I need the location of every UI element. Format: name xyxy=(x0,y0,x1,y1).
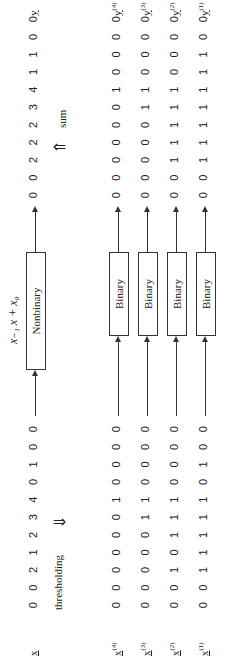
sample-value: 0 xyxy=(110,508,122,526)
binary-output-label: y(3) xyxy=(139,2,152,16)
sample-value: 0 xyxy=(27,420,39,438)
sample-value: 0 xyxy=(139,116,151,134)
binary-input-arrow xyxy=(118,340,119,416)
sample-value: 0 xyxy=(139,28,151,46)
sample-value: 1 xyxy=(27,46,39,64)
sample-value: 1 xyxy=(197,116,209,134)
sample-value: 1 xyxy=(197,134,209,152)
sample-value: 2 xyxy=(27,561,39,579)
binary-output-label: y(1) xyxy=(197,2,210,16)
threshold-decomposition-diagram: x 00212340100 Nonbinary 00222341100 y x₋… xyxy=(0,0,226,664)
threshold-level-row: x(2) 00101110000 Binary 00111110000 y(2) xyxy=(168,0,188,664)
sample-value: 0 xyxy=(110,63,122,81)
sample-value: 0 xyxy=(139,544,151,562)
binary-output-arrowhead xyxy=(202,206,208,212)
output-arrowhead xyxy=(32,206,38,212)
sample-value: 0 xyxy=(110,526,122,544)
input-arrowhead xyxy=(32,370,38,376)
sample-value: 0 xyxy=(139,169,151,187)
sample-value: 0 xyxy=(110,151,122,169)
sample-value: 0 xyxy=(197,438,209,456)
sample-value: 0 xyxy=(110,28,122,46)
sample-value: 3 xyxy=(27,508,39,526)
sample-value: 0 xyxy=(27,186,39,204)
sample-value: 1 xyxy=(139,98,151,116)
sample-value: 1 xyxy=(139,491,151,509)
sample-value: 1 xyxy=(168,151,180,169)
threshold-level-row: x(4) 00000010000 Binary 00000010000 y(4) xyxy=(110,0,130,664)
binary-filter-box: Binary xyxy=(196,252,216,336)
sample-value: 1 xyxy=(197,63,209,81)
sample-value: 0 xyxy=(168,596,180,614)
threshold-level-row: x(3) 00000110000 Binary 00000110000 y(3) xyxy=(139,0,159,664)
sample-value: 2 xyxy=(27,116,39,134)
binary-output-arrow xyxy=(205,210,206,252)
sample-value: 0 xyxy=(139,596,151,614)
input-label: x xyxy=(27,651,39,657)
filter-formula: x₋₁ x + x₀ xyxy=(6,296,21,344)
binary-output-sequence: 00000110000 xyxy=(139,10,151,204)
binary-input-sequence: 00101110000 xyxy=(168,420,180,614)
binary-input-sequence: 00000110000 xyxy=(139,420,151,614)
sample-value: 1 xyxy=(197,491,209,509)
binary-output-arrow xyxy=(176,210,177,252)
sample-value: 0 xyxy=(110,420,122,438)
sample-value: 1 xyxy=(197,456,209,474)
sample-value: 2 xyxy=(27,526,39,544)
sample-value: 0 xyxy=(27,596,39,614)
sample-value: 0 xyxy=(27,473,39,491)
binary-input-sequence: 00000010000 xyxy=(110,420,122,614)
sample-value: 1 xyxy=(139,81,151,99)
sample-value: 0 xyxy=(110,596,122,614)
sample-value: 0 xyxy=(139,438,151,456)
sum-arrow-icon: ⇒ xyxy=(53,138,66,157)
binary-input-arrow xyxy=(147,340,148,416)
sample-value: 0 xyxy=(168,169,180,187)
output-arrow xyxy=(35,210,36,252)
sample-value: 0 xyxy=(110,46,122,64)
input-sequence: 00212340100 xyxy=(27,420,39,614)
sample-value: 0 xyxy=(197,186,209,204)
binary-output-sequence: 00111110000 xyxy=(168,10,180,204)
sample-value: 2 xyxy=(27,151,39,169)
sample-value: 1 xyxy=(110,491,122,509)
sample-value: 0 xyxy=(168,544,180,562)
sample-value: 1 xyxy=(197,98,209,116)
sample-value: 1 xyxy=(168,561,180,579)
binary-filter-box: Binary xyxy=(167,252,187,336)
sample-value: 0 xyxy=(110,186,122,204)
sample-value: 0 xyxy=(197,28,209,46)
binary-input-label: x(1) xyxy=(197,642,210,656)
sample-value: 0 xyxy=(168,579,180,597)
binary-input-sequence: 00111110100 xyxy=(197,420,209,614)
sample-value: 1 xyxy=(27,63,39,81)
binary-output-sequence: 00111111100 xyxy=(197,10,209,204)
sample-value: 1 xyxy=(168,81,180,99)
sample-value: 1 xyxy=(168,134,180,152)
binary-output-arrow xyxy=(147,210,148,252)
sample-value: 4 xyxy=(27,81,39,99)
sample-value: 1 xyxy=(197,526,209,544)
binary-input-label: x(2) xyxy=(168,642,181,656)
sample-value: 0 xyxy=(110,456,122,474)
sample-value: 1 xyxy=(27,456,39,474)
binary-input-label: x(3) xyxy=(139,642,152,656)
binary-output-label: y(2) xyxy=(168,2,181,16)
binary-output-arrowhead xyxy=(115,206,121,212)
sample-value: 0 xyxy=(168,438,180,456)
sample-value: 1 xyxy=(197,151,209,169)
sample-value: 0 xyxy=(110,561,122,579)
binary-output-arrowhead xyxy=(144,206,150,212)
binary-input-arrowhead xyxy=(173,336,179,342)
binary-output-sequence: 00000010000 xyxy=(110,10,122,204)
sample-value: 3 xyxy=(27,98,39,116)
sample-value: 1 xyxy=(197,544,209,562)
sample-value: 1 xyxy=(197,561,209,579)
output-label: y xyxy=(27,11,39,17)
sample-value: 0 xyxy=(139,63,151,81)
thresholding-label: thresholding xyxy=(52,555,64,610)
sample-value: 0 xyxy=(27,579,39,597)
sample-value: 0 xyxy=(168,186,180,204)
sum-label: sum xyxy=(56,110,68,128)
binary-output-arrow xyxy=(118,210,119,252)
